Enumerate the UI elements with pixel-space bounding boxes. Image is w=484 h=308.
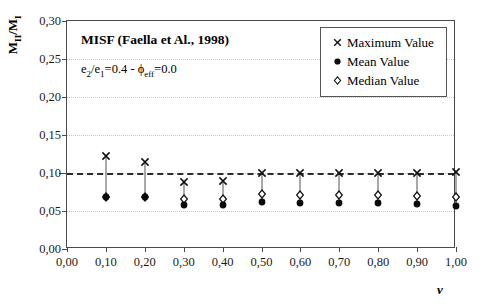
legend-item: Median Value <box>329 71 434 90</box>
x-tick-mark <box>184 247 185 252</box>
x-tick-label: 0,70 <box>328 255 350 270</box>
chart-figure: MII/MI ν 0,000,050,100,150,200,250,30 0,… <box>0 0 484 308</box>
x-tick-mark <box>378 247 379 252</box>
y-tick-mark <box>62 211 67 212</box>
plot-inner: 0,000,050,100,150,200,250,30 0,000,100,2… <box>67 21 454 247</box>
mean-value-marker <box>450 200 462 212</box>
y-tick-mark <box>62 21 67 22</box>
x-tick-label: 0,60 <box>289 255 311 270</box>
y-tick-mark <box>62 97 67 98</box>
mean-value-marker <box>217 199 229 211</box>
maximum-value-marker <box>139 156 151 168</box>
x-tick-label: 0,10 <box>95 255 117 270</box>
x-tick-mark <box>106 247 107 252</box>
maximum-value-marker <box>333 167 345 179</box>
chart-subtitle: e2/e1=0.4 - ϕeff=0.0 <box>81 62 177 79</box>
legend-label: Mean Value <box>347 54 409 70</box>
maximum-value-marker <box>100 150 112 162</box>
x-tick-label: 0,00 <box>56 255 78 270</box>
x-tick-label: 0,20 <box>134 255 156 270</box>
gridline-y <box>67 97 454 98</box>
y-tick-label: 0,05 <box>39 204 61 219</box>
x-tick-mark <box>339 247 340 252</box>
mean-value-marker <box>100 191 112 203</box>
y-tick-label: 0,10 <box>39 166 61 181</box>
legend-label: Maximum Value <box>347 35 434 51</box>
maximum-value-marker <box>450 166 462 178</box>
x-tick-label: 0,30 <box>173 255 195 270</box>
maximum-value-marker <box>372 167 384 179</box>
mean-value-marker <box>333 197 345 209</box>
maximum-value-marker <box>256 167 268 179</box>
x-tick-mark <box>262 247 263 252</box>
mean-value-marker <box>139 191 151 203</box>
x-tick-label: 0,50 <box>251 255 273 270</box>
x-tick-label: 0,90 <box>406 255 428 270</box>
x-tick-mark <box>417 247 418 252</box>
y-tick-label: 0,20 <box>39 90 61 105</box>
x-tick-label: 1,00 <box>445 255 467 270</box>
y-tick-label: 0,30 <box>39 14 61 29</box>
x-tick-mark <box>67 247 68 252</box>
legend: Maximum ValueMean ValueMedian Value <box>320 27 447 97</box>
gridline-y <box>67 135 454 136</box>
x-tick-mark <box>223 247 224 252</box>
maximum-value-marker <box>178 176 190 188</box>
maximum-value-marker <box>217 175 229 187</box>
mean-value-marker <box>256 196 268 208</box>
mean-value-marker <box>411 198 423 210</box>
x-tick-label: 0,80 <box>367 255 389 270</box>
plot-area: 0,000,050,100,150,200,250,30 0,000,100,2… <box>66 20 455 248</box>
x-tick-mark <box>300 247 301 252</box>
legend-marker-icon <box>329 75 345 86</box>
legend-item: Mean Value <box>329 52 434 71</box>
y-tick-mark <box>62 59 67 60</box>
legend-marker-icon <box>329 56 345 67</box>
maximum-value-marker <box>294 167 306 179</box>
x-tick-mark <box>145 247 146 252</box>
legend-label: Median Value <box>347 73 419 89</box>
mean-value-marker <box>372 197 384 209</box>
x-tick-mark <box>456 247 457 252</box>
mean-value-marker <box>178 199 190 211</box>
x-tick-label: 0,40 <box>212 255 234 270</box>
y-tick-mark <box>62 135 67 136</box>
mean-value-marker <box>294 197 306 209</box>
chart-title: MISF (Faella et Al., 1998) <box>81 32 229 48</box>
maximum-value-marker <box>411 167 423 179</box>
gridline-y <box>67 211 454 212</box>
x-axis-title: ν <box>437 282 443 298</box>
legend-marker-icon <box>329 37 345 48</box>
y-tick-label: 0,25 <box>39 52 61 67</box>
legend-item: Maximum Value <box>329 33 434 52</box>
y-tick-label: 0,15 <box>39 128 61 143</box>
y-axis-title: MII/MI <box>5 3 23 67</box>
